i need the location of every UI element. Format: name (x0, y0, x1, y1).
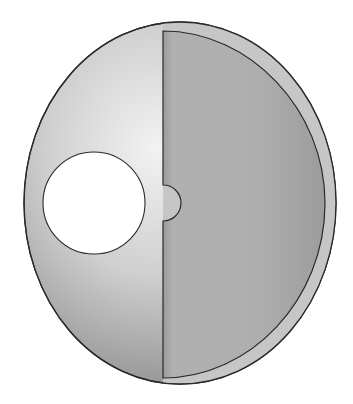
disc-hole (43, 152, 145, 254)
disc-right-face (163, 31, 325, 378)
disc-diagram (0, 0, 353, 404)
disc-illustration (0, 0, 353, 404)
